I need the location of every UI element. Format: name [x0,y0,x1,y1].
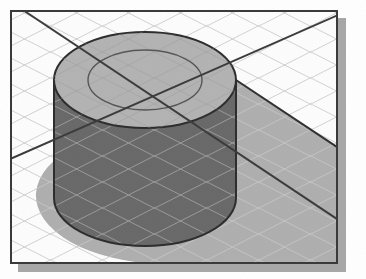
isometric-scene [0,0,366,279]
scan-texture [0,0,366,279]
screenshot-canvas [0,0,366,279]
